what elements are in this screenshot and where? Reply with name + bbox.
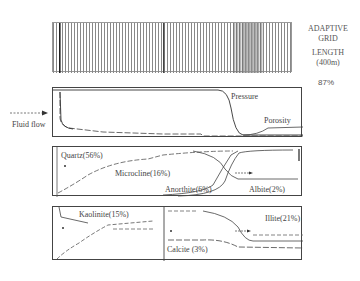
microcline-label: Microcline(16%)	[115, 169, 170, 178]
illite-label: Illite(21%)	[265, 214, 300, 223]
length-line2: (400m)	[300, 58, 356, 68]
grid-lines	[53, 23, 293, 73]
fluid-flow-label: Fluid flow	[12, 120, 46, 129]
percent-label: 87%	[306, 78, 346, 88]
length-line1: LENGTH	[300, 48, 356, 58]
adaptive-grid-label: ADAPTIVE GRID	[300, 24, 356, 44]
grid-title-line2: GRID	[300, 34, 356, 44]
clay-panel: Kaolinite(15%) Calcite (3%) Illite(21%)	[52, 206, 302, 260]
calcite-label: Calcite (3%)	[167, 245, 208, 254]
minerals-panel: Quartz(56%) Microcline(16%) Anorthite(6%…	[52, 146, 302, 196]
kaolinite-label: Kaolinite(15%)	[79, 210, 129, 219]
pressure-porosity-curves	[53, 88, 303, 138]
adaptive-grid	[52, 22, 292, 72]
pressure-label: Pressure	[231, 92, 258, 101]
quartz-label: Quartz(56%)	[61, 151, 103, 160]
pressure-porosity-panel: Pressure Porosity	[52, 87, 302, 137]
anorthite-label: Anorthite(6%)	[165, 185, 212, 194]
grid-title-line1: ADAPTIVE	[300, 24, 356, 34]
length-label: LENGTH (400m)	[300, 48, 356, 68]
porosity-label: Porosity	[264, 116, 291, 125]
albite-label: Albite(2%)	[249, 185, 285, 194]
fluid-flow-arrow	[8, 110, 48, 116]
